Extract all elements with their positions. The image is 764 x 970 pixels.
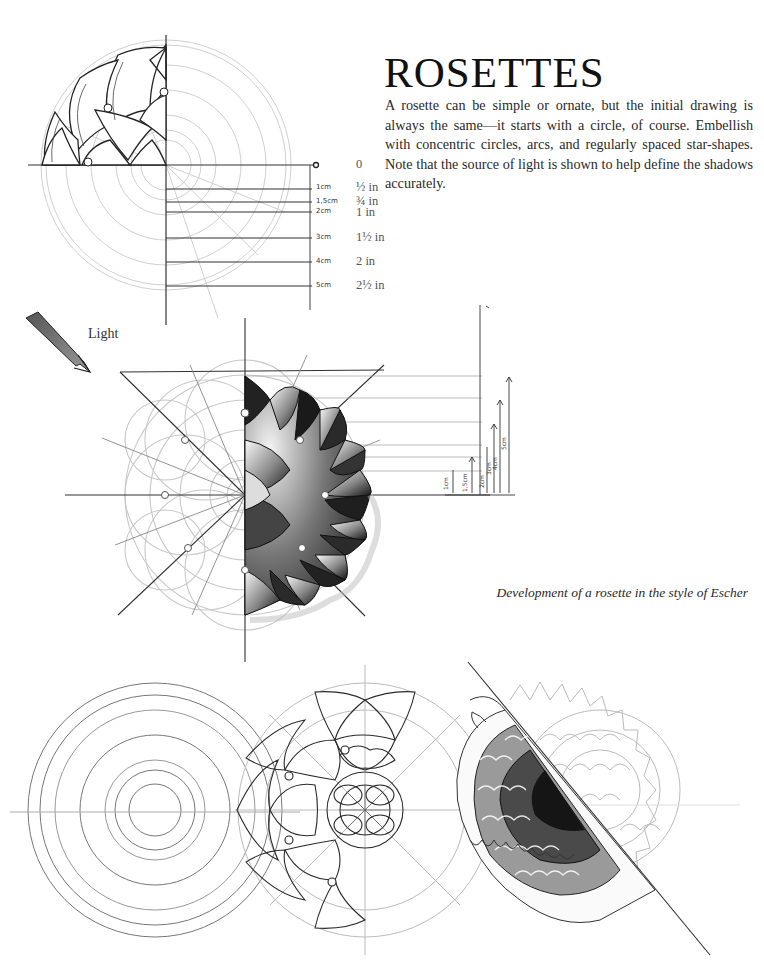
side-label-1-5cm: 1,5cm bbox=[461, 473, 468, 492]
shaded-chrysanthemum-rosette bbox=[457, 662, 740, 955]
illustrations-canvas: 1cm 1,5cm 2cm 3cm 4cm 5cm bbox=[0, 0, 764, 970]
side-measurement-scale: 1cm 1,5cm 2cm 3cm 4cm 5cm bbox=[442, 305, 515, 495]
side-label-5cm: 5cm bbox=[500, 437, 507, 450]
light-direction-arrow-icon bbox=[26, 312, 90, 372]
side-label-4cm: 4cm bbox=[491, 457, 498, 470]
quarter-rosette-with-scale bbox=[28, 35, 319, 325]
side-label-1cm: 1cm bbox=[442, 477, 449, 490]
side-label-2cm: 2cm bbox=[478, 475, 485, 488]
half-shaded-escher-rosette bbox=[65, 318, 490, 662]
